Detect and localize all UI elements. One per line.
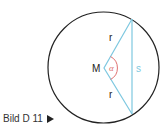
chord-label-s: s: [136, 63, 141, 74]
radius-label-bottom: r: [109, 89, 113, 100]
circle: [48, 12, 159, 123]
angle-label-alpha: α: [109, 63, 114, 73]
figure-caption: Bild D 11: [3, 113, 54, 124]
caption-text: Bild D 11: [3, 113, 43, 124]
center-label-m: M: [92, 63, 100, 74]
play-arrow-icon: [47, 115, 54, 123]
radius-label-top: r: [109, 32, 113, 43]
